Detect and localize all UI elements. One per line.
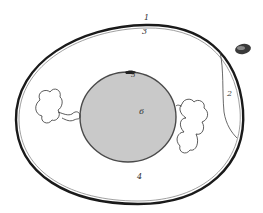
label-5: 5 bbox=[131, 72, 135, 79]
label-4: 4 bbox=[137, 173, 142, 181]
egg-diagram bbox=[0, 0, 263, 213]
label-2: 2 bbox=[227, 90, 232, 98]
label-6: 6 bbox=[139, 108, 144, 116]
chalaza-right bbox=[176, 99, 208, 153]
yolk bbox=[80, 72, 176, 162]
label-1: 1 bbox=[144, 14, 149, 22]
label-3: 3 bbox=[142, 28, 147, 36]
chalaza-left bbox=[36, 89, 80, 123]
small-egg-highlight bbox=[237, 46, 245, 50]
